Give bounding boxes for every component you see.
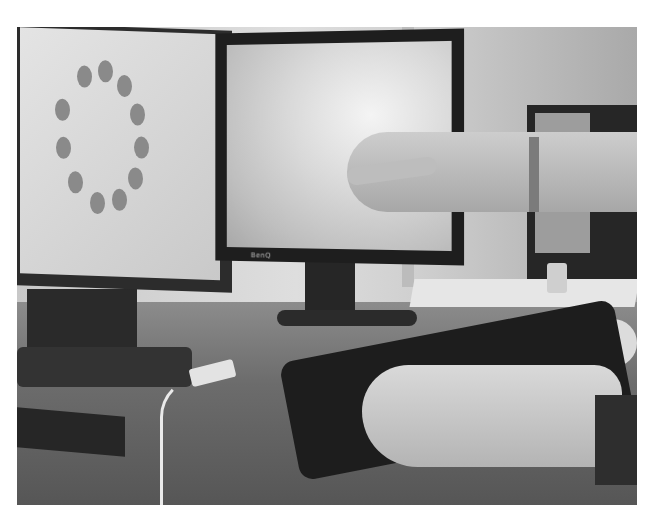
ring-dot [128, 167, 143, 190]
ring-dot [117, 75, 132, 98]
cup [547, 263, 567, 293]
ring-dot [98, 60, 113, 83]
ring-dot [90, 192, 105, 215]
ring-dot [77, 65, 92, 88]
photo: BenQ [17, 27, 637, 505]
left-monitor-base [17, 347, 192, 387]
typing-hand [362, 365, 622, 467]
ring-dot [130, 103, 145, 126]
ring-dot [134, 136, 149, 159]
ring-dot [56, 137, 71, 160]
left-monitor [17, 27, 232, 293]
bracelet [529, 137, 539, 212]
ring-dot [112, 189, 127, 212]
ring-dot [68, 171, 83, 194]
usb-cable [160, 377, 236, 505]
sleeve [595, 395, 637, 485]
center-monitor-base [277, 310, 417, 326]
monitor-logo: BenQ [251, 251, 271, 259]
left-monitor-screen [20, 27, 220, 280]
ring-dot [55, 99, 70, 122]
